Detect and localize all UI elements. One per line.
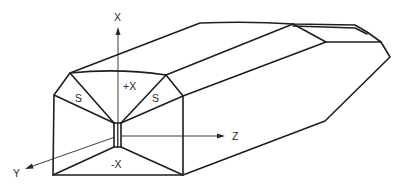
figure-caption: [60, 183, 400, 190]
solid-diagram: X Y Z +X -X S S: [0, 0, 400, 190]
left-bevel-label: S: [75, 92, 82, 104]
x-axis-arrowhead: [116, 27, 121, 35]
y-axis-arrowhead: [25, 164, 34, 170]
z-axis-label: Z: [232, 130, 239, 142]
x-axis-label: X: [114, 11, 121, 23]
y-axis-label: Y: [13, 167, 20, 179]
right-bevel-label: S: [152, 92, 159, 104]
axes: [25, 27, 225, 169]
z-axis-arrowhead: [217, 134, 225, 139]
top-face-label: +X: [123, 80, 136, 92]
bottom-face-label: -X: [111, 158, 122, 170]
